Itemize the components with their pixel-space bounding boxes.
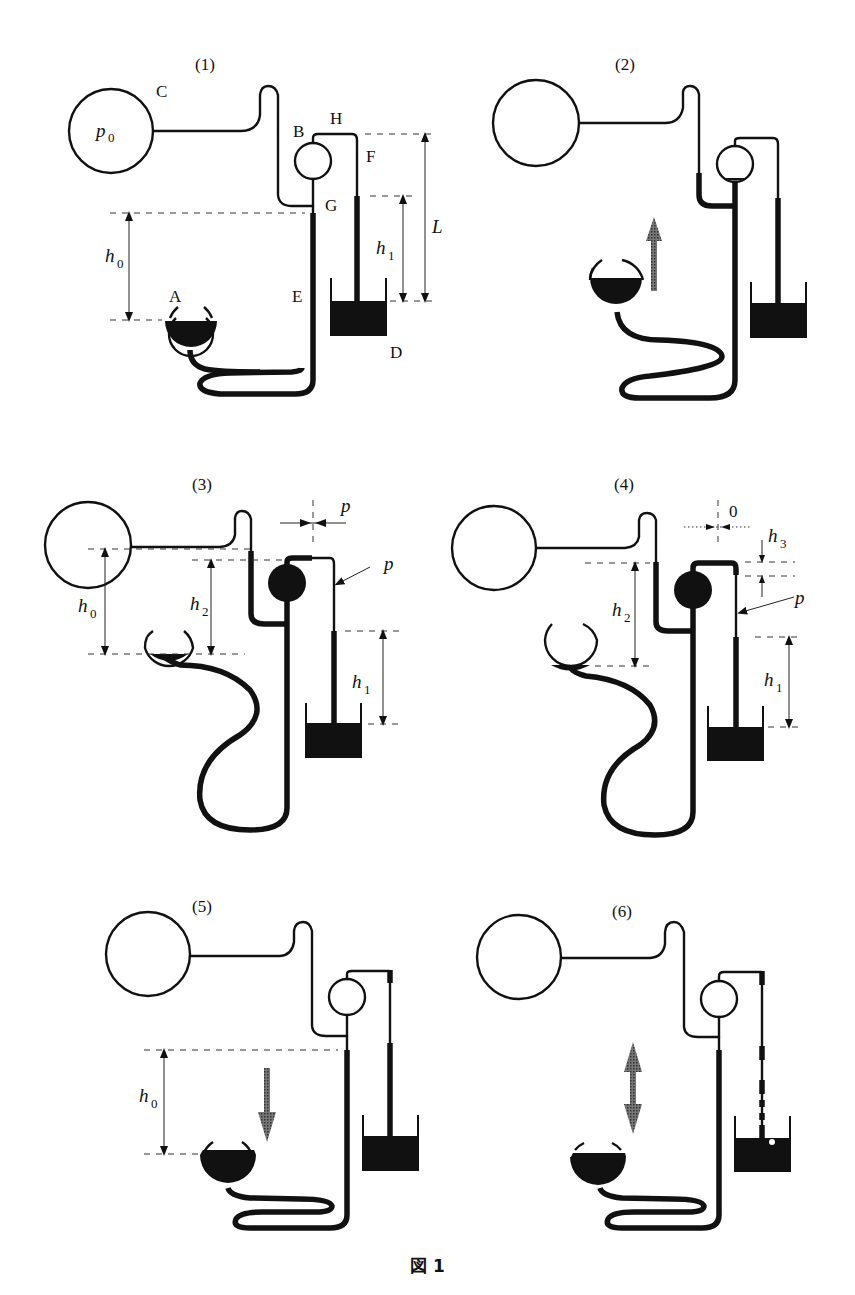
label-p0-sub: 0 [108,130,115,145]
vessel-c [106,912,190,996]
label-h2: h [612,599,622,620]
reservoir-a-liquid [590,278,642,304]
tube-h [312,558,334,631]
label-p-top: p [339,495,351,516]
move-down-arrow-icon [624,1104,642,1134]
tube-c-to-g [536,513,656,562]
reservoir-a-liquid [165,321,217,347]
reservoir-a [545,624,597,666]
label-l: L [431,216,443,237]
move-up-down-arrow-shaft [630,1070,636,1106]
air-bubble [769,1139,775,1145]
svg-text:2: 2 [202,604,209,619]
bulb-b [295,143,331,179]
vessel-c [45,502,131,588]
panel-1-title: (1) [195,55,215,74]
svg-text:0: 0 [90,606,97,621]
label-h2: h [190,593,200,614]
label-h1: h [764,669,774,690]
move-down-arrow-icon [258,1112,276,1142]
bulb-b [701,981,737,1017]
panel-4-title: (4) [614,475,634,494]
reservoir-a-liquid [150,654,188,661]
tube-h [347,971,389,979]
move-up-arrow-icon [646,217,662,241]
column-e-hose [166,600,287,830]
label-h3: h [768,525,778,546]
label-d: D [390,343,402,362]
label-h1: h [376,237,386,258]
move-down-arrow-shaft [264,1068,270,1114]
panel-3-title: (3) [192,475,212,494]
reservoir-a-liquid [570,1157,626,1185]
svg-text:1: 1 [364,682,371,697]
panel-3: (3) h 0 h 2 h 1 p p [45,475,400,830]
label-p0: p [94,120,106,141]
bulb-b-filled [268,564,306,602]
beaker-d-liquid [751,303,806,337]
move-up-arrow-shaft [651,237,657,291]
svg-text:0: 0 [151,1096,158,1111]
vessel-c [452,506,536,590]
column-e-coil [228,1050,347,1228]
svg-text:0: 0 [117,256,124,271]
move-up-arrow-icon [624,1042,642,1072]
column-e-hose [570,607,693,835]
figure-canvas: (1) p 0 C B H F G E D A h [0,0,855,1295]
pointer-p [742,597,794,612]
bulb-b-filled [674,571,712,609]
vessel-c [493,80,579,166]
label-p-side: p [793,587,805,608]
column-e-coil [600,1050,719,1228]
label-h0: h [139,1085,149,1106]
beaker-d-liquid [735,1138,790,1171]
tube-c-to-g [190,922,347,1036]
panel-2: (2) [493,55,806,398]
beaker-d-liquid [331,301,386,335]
tube-c-to-g [579,86,699,173]
label-zero: 0 [729,502,738,521]
pointer-p [339,567,370,583]
reservoir-a-liquid [551,665,590,671]
panel-6: (6) [477,902,790,1228]
panel-5: (5) h 0 [106,897,418,1228]
tube-c-to-g [561,922,719,1037]
panel-4: (4) h 2 h 3 h 1 0 p [452,475,805,835]
svg-text:1: 1 [776,680,783,695]
figure-caption: 図 1 [0,1252,855,1277]
panel-2-title: (2) [615,55,635,74]
svg-text:1: 1 [388,248,395,263]
label-h0: h [105,245,115,266]
label-h0: h [78,595,88,616]
label-h: H [330,109,342,128]
beaker-d-liquid [306,723,361,757]
tube-c-to-g [131,511,251,551]
svg-text:2: 2 [624,610,631,625]
vessel-c [477,915,561,999]
panel-1: (1) p 0 C B H F G E D A h [69,55,443,394]
bulb-b [329,979,365,1015]
bulb-b [717,146,753,182]
label-e: E [292,287,302,306]
label-h1: h [352,671,362,692]
reservoir-a [575,1143,584,1150]
svg-text:3: 3 [780,536,787,551]
beaker-d-liquid [708,727,763,760]
label-a: A [169,287,182,306]
label-c: C [156,82,167,101]
label-b: B [293,122,304,141]
label-p-side: p [382,553,394,574]
reservoir-a [622,260,643,280]
reservoir-a-liquid [200,1155,256,1183]
panel-6-title: (6) [612,902,632,921]
beaker-d-liquid [363,1136,418,1170]
tube-h [719,972,761,981]
label-f: F [366,147,375,166]
tube-c-to-g [153,86,313,206]
panel-5-title: (5) [192,897,212,916]
label-g: G [325,196,337,215]
